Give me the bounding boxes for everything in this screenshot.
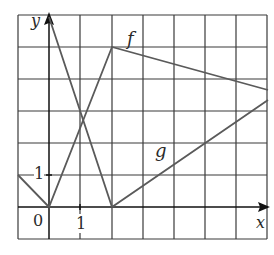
series-label-g: g	[155, 140, 167, 161]
y-axis-label: y	[31, 11, 40, 30]
series-g	[49, 17, 268, 207]
x-tick-label-1: 1	[76, 214, 86, 233]
x-axis-label: x	[256, 213, 265, 232]
origin-label: 0	[33, 211, 43, 230]
y-tick-label-1: 1	[34, 164, 44, 183]
series-label-f: f	[127, 28, 134, 49]
